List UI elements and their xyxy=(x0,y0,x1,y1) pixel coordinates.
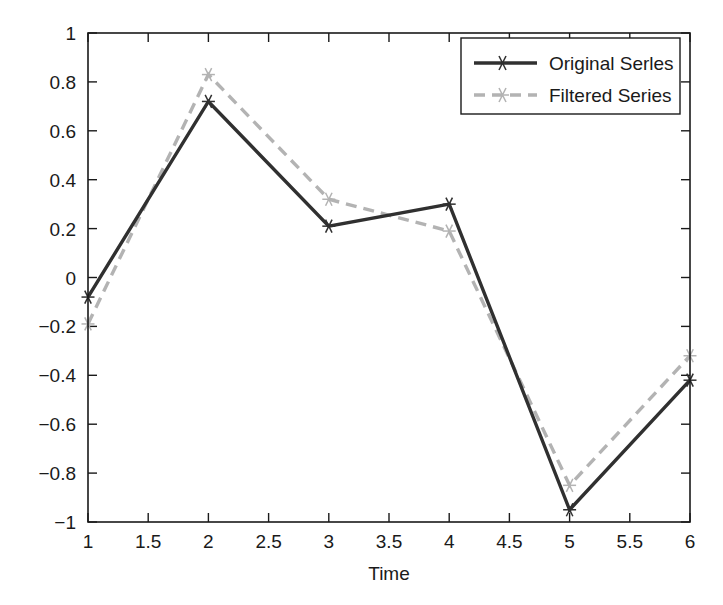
x-tick-label: 4 xyxy=(444,531,455,552)
x-tick-label: 2 xyxy=(203,531,214,552)
x-tick-label: 4.5 xyxy=(496,531,522,552)
chart-figure: 10.80.60.40.20−0.2−0.4−0.6−0.8−1 11.522.… xyxy=(0,0,723,605)
x-tick-label: 2.5 xyxy=(255,531,281,552)
y-tick-label: −1 xyxy=(54,512,76,533)
x-tick-label: 3.5 xyxy=(376,531,402,552)
y-tick-label: 1 xyxy=(65,23,76,44)
y-tick-label: −0.6 xyxy=(38,414,76,435)
x-tick-label: 5.5 xyxy=(617,531,643,552)
y-tick-label: −0.2 xyxy=(38,316,76,337)
y-tick-label: 0.8 xyxy=(50,72,76,93)
legend-label-filtered: Filtered Series xyxy=(549,85,672,106)
y-tick-label: 0.6 xyxy=(50,121,76,142)
x-tick-label: 5 xyxy=(564,531,575,552)
x-tick-label: 6 xyxy=(685,531,696,552)
y-tick-label: −0.8 xyxy=(38,463,76,484)
x-tick-label: 3 xyxy=(324,531,335,552)
line-chart-canvas: 10.80.60.40.20−0.2−0.4−0.6−0.8−1 11.522.… xyxy=(0,0,723,605)
x-tick-label: 1 xyxy=(83,531,94,552)
y-tick-label: −0.4 xyxy=(38,365,76,386)
y-tick-label: 0 xyxy=(65,268,76,289)
y-tick-label: 0.4 xyxy=(50,170,77,191)
x-tick-label: 1.5 xyxy=(135,531,161,552)
chart-legend[interactable]: Original Serles Filtered Series xyxy=(461,38,680,114)
x-axis-title: Time xyxy=(368,563,410,584)
legend-label-original: Original Serles xyxy=(549,53,674,74)
y-tick-label: 0.2 xyxy=(50,219,76,240)
